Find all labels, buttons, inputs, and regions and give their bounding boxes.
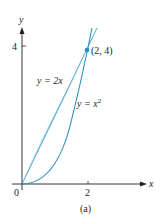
graph: y x 4 0 2 (2, 4) y = 2x y = x2 (a)	[0, 0, 163, 220]
figure-caption: (a)	[80, 203, 91, 215]
x-axis-label: x	[148, 178, 154, 189]
y-axis-arrow-icon	[20, 27, 25, 34]
x-axis-arrow-icon	[140, 182, 147, 187]
x-tick-label-0: 0	[14, 187, 19, 198]
y-axis-label: y	[18, 14, 24, 25]
x-tick-label-2: 2	[85, 187, 90, 198]
intersection-point	[85, 48, 90, 53]
y-tick-label-4: 4	[12, 41, 17, 52]
line-label: y = 2x	[36, 75, 63, 86]
point-label: (2, 4)	[91, 45, 113, 57]
parabola-label: y = x2	[76, 97, 102, 109]
